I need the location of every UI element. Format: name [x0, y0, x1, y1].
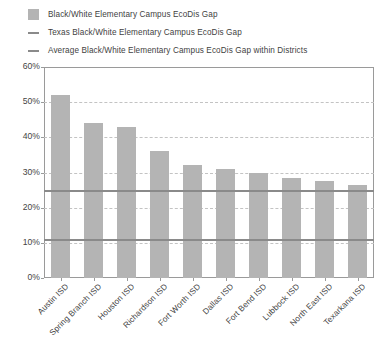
y-axis-tick-label: 30%: [0, 167, 40, 177]
bar-series: [44, 67, 374, 278]
x-axis-tick-mark: [292, 278, 293, 281]
chart-legend: Black/White Elementary Campus EcoDis Gap…: [28, 6, 373, 60]
x-axis-tick-label: Dallas ISD: [200, 282, 234, 316]
y-axis-tick-mark: [41, 137, 44, 138]
legend-item-label: Average Black/White Elementary Campus Ec…: [48, 46, 307, 55]
y-axis-tick-label: 20%: [0, 202, 40, 212]
y-axis-tick-label: 40%: [0, 131, 40, 141]
chart-container: Black/White Elementary Campus EcoDis Gap…: [0, 0, 377, 356]
x-axis-tick-mark: [325, 278, 326, 281]
legend-item-label: Black/White Elementary Campus EcoDis Gap: [48, 10, 218, 19]
x-axis-tick-mark: [160, 278, 161, 281]
x-axis-tick-mark: [226, 278, 227, 281]
y-axis-tick-mark: [41, 173, 44, 174]
bar: [348, 185, 368, 278]
bar: [84, 123, 104, 278]
x-axis-tick-mark: [94, 278, 95, 281]
y-axis-tick-mark: [41, 208, 44, 209]
x-axis-tick-mark: [127, 278, 128, 281]
reference-line-district-average: [44, 239, 374, 241]
legend-item-texas-line: Texas Black/White Elementary Campus EcoD…: [28, 24, 373, 41]
bar: [216, 169, 236, 278]
y-axis-tick-label: 10%: [0, 237, 40, 247]
bar: [183, 165, 203, 278]
y-axis-tick-label: 60%: [0, 61, 40, 71]
x-axis: Austin ISDSpring Branch ISDHouston ISDRi…: [44, 278, 374, 356]
legend-item-bar-series: Black/White Elementary Campus EcoDis Gap: [28, 6, 373, 23]
reference-line-texas: [44, 190, 374, 192]
bar: [117, 127, 137, 278]
legend-line-icon: [28, 32, 39, 34]
plot-area: [44, 67, 374, 278]
bar: [315, 181, 335, 278]
x-axis-tick-mark: [358, 278, 359, 281]
bar: [51, 95, 71, 278]
x-axis-tick-mark: [61, 278, 62, 281]
legend-line-icon: [28, 50, 39, 52]
bar: [150, 151, 170, 278]
y-axis-tick-label: 50%: [0, 96, 40, 106]
bar: [282, 178, 302, 278]
y-axis-tick-mark: [41, 67, 44, 68]
bar: [249, 173, 269, 279]
y-axis-tick-mark: [41, 243, 44, 244]
y-axis-tick-mark: [41, 102, 44, 103]
y-axis-tick-label: 0%: [0, 272, 40, 282]
x-axis-tick-label: Austin ISD: [35, 282, 69, 316]
legend-swatch-icon: [28, 9, 39, 20]
x-axis-tick-mark: [259, 278, 260, 281]
legend-item-label: Texas Black/White Elementary Campus EcoD…: [48, 28, 242, 37]
x-axis-tick-mark: [193, 278, 194, 281]
legend-item-average-line: Average Black/White Elementary Campus Ec…: [28, 42, 373, 59]
